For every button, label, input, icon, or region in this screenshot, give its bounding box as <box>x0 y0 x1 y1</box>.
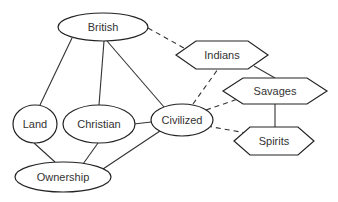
savages-label: Savages <box>254 85 297 97</box>
indians-label: Indians <box>204 49 240 61</box>
ownership-label: Ownership <box>37 171 90 183</box>
node-savages: Savages <box>223 78 327 104</box>
edge-christian-ownership <box>83 143 98 164</box>
civilized-label: Civilized <box>162 114 203 126</box>
node-christian: Christian <box>63 105 135 143</box>
node-civilized: Civilized <box>151 104 213 136</box>
edge-british-christian <box>99 41 104 105</box>
node-british: British <box>58 13 148 41</box>
edge-british-land <box>40 38 72 105</box>
edge-civilized-spirits <box>207 126 246 133</box>
node-ownership: Ownership <box>15 162 111 192</box>
node-land: Land <box>13 105 57 143</box>
node-spirits: Spirits <box>234 127 314 155</box>
spirits-label: Spirits <box>259 135 290 147</box>
edge-civilized-indians <box>193 69 218 104</box>
edge-british-indians <box>148 28 184 48</box>
edge-christian-civilized <box>134 122 151 124</box>
node-indians: Indians <box>176 41 268 69</box>
edge-british-civilized <box>107 41 164 107</box>
land-label: Land <box>23 118 47 130</box>
edge-indians-savages <box>254 66 275 78</box>
concept-map-diagram: British Indians Savages Land Christian C… <box>0 0 338 202</box>
christian-label: Christian <box>77 118 120 130</box>
edge-land-ownership <box>34 143 55 162</box>
british-label: British <box>88 21 119 33</box>
edge-civilized-savages <box>206 99 238 110</box>
